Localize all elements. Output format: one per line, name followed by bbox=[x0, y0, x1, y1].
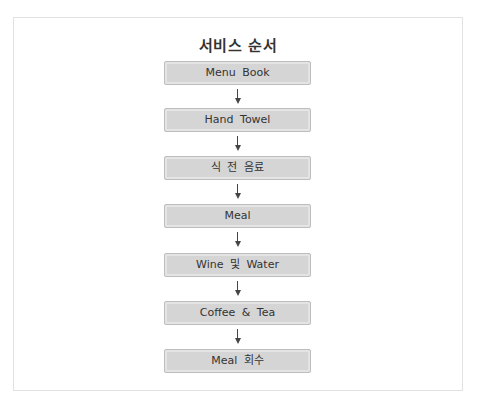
step-aperitif: 식 전 음료 bbox=[164, 156, 311, 180]
down-arrow-icon bbox=[235, 89, 241, 104]
step-menu-book: Menu Book bbox=[164, 61, 311, 85]
step-meal: Meal bbox=[164, 204, 311, 228]
diagram-title: 서비스 순서 bbox=[14, 34, 462, 55]
down-arrow-icon bbox=[235, 232, 241, 247]
step-coffee-tea: Coffee & Tea bbox=[164, 301, 311, 325]
down-arrow-icon bbox=[235, 281, 241, 296]
down-arrow-icon bbox=[235, 184, 241, 199]
step-meal-collection: Meal 회수 bbox=[164, 349, 311, 373]
down-arrow-icon bbox=[235, 136, 241, 151]
service-order-panel: 서비스 순서 Menu Book Hand Towel 식 전 음료 Meal … bbox=[13, 17, 463, 391]
down-arrow-icon bbox=[235, 329, 241, 344]
step-hand-towel: Hand Towel bbox=[164, 108, 311, 132]
step-wine-water: Wine 및 Water bbox=[164, 253, 311, 277]
